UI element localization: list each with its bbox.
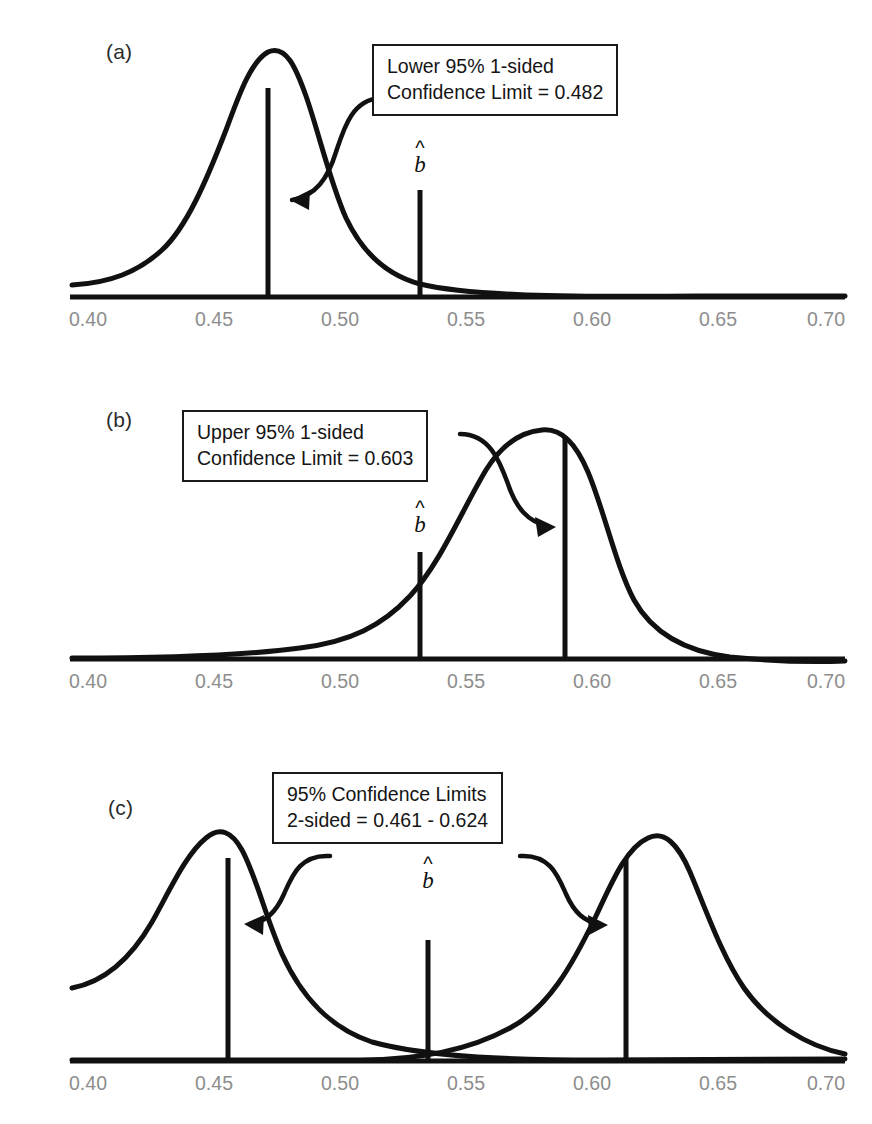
callout-box-a: Lower 95% 1-sided Confidence Limit = 0.4… <box>372 44 618 116</box>
arrowhead-c-left <box>244 915 264 935</box>
tick-label-b-6: 0.70 <box>807 670 845 693</box>
callout-a-line1: Lower 95% 1-sided <box>387 55 554 77</box>
estimate-symbol-b: ^ b <box>400 502 440 535</box>
tick-label-c-4: 0.60 <box>573 1072 611 1095</box>
tick-label-b-2: 0.50 <box>321 670 359 693</box>
tick-label-a-4: 0.60 <box>573 308 611 331</box>
panel-b: (b) Upper 95% 1-sided Confidence Limit =… <box>0 370 872 750</box>
arrow-path-c-right <box>520 856 600 924</box>
tick-label-a-5: 0.65 <box>699 308 737 331</box>
panel-label-a: (a) <box>106 40 132 64</box>
tick-label-c-3: 0.55 <box>447 1072 485 1095</box>
tick-label-b-0: 0.40 <box>69 670 107 693</box>
callout-c-line1: 95% Confidence Limits <box>287 783 486 805</box>
tick-label-b-5: 0.65 <box>699 670 737 693</box>
tick-label-a-0: 0.40 <box>69 308 107 331</box>
callout-b-line2: Confidence Limit = 0.603 <box>197 445 413 471</box>
panel-a: (a) Lower 95% 1-sided Confidence Limit =… <box>0 0 872 370</box>
tick-label-a-2: 0.50 <box>321 308 359 331</box>
callout-b-line1: Upper 95% 1-sided <box>197 421 364 443</box>
tick-label-c-5: 0.65 <box>699 1072 737 1095</box>
x-axis-tick-labels-c: 0.40 0.45 0.50 0.55 0.60 0.65 0.70 <box>0 1072 872 1100</box>
tick-label-a-1: 0.45 <box>195 308 233 331</box>
arrowhead-a <box>290 190 310 210</box>
tick-label-c-2: 0.50 <box>321 1072 359 1095</box>
confidence-limits-figure: (a) Lower 95% 1-sided Confidence Limit =… <box>0 0 872 1124</box>
estimate-symbol-a: ^ b <box>400 142 440 175</box>
lower-sampling-distribution-curve-c <box>72 832 845 1060</box>
panel-label-c: (c) <box>108 796 133 820</box>
panel-c-curves <box>72 832 845 1060</box>
callout-a-line2: Confidence Limit = 0.482 <box>387 79 603 105</box>
b-letter-c: b <box>408 871 448 891</box>
panel-label-b: (b) <box>106 408 132 432</box>
tick-label-b-4: 0.60 <box>573 670 611 693</box>
callout-box-b: Upper 95% 1-sided Confidence Limit = 0.6… <box>182 410 428 482</box>
arrow-path-c-left <box>250 856 330 924</box>
callout-box-c: 95% Confidence Limits 2-sided = 0.461 - … <box>272 772 503 844</box>
tick-label-c-6: 0.70 <box>807 1072 845 1095</box>
x-axis-tick-labels-b: 0.40 0.45 0.50 0.55 0.60 0.65 0.70 <box>0 670 872 698</box>
b-letter-a: b <box>400 155 440 175</box>
upper-sampling-distribution-curve-c <box>72 836 845 1060</box>
arrowhead-c-right <box>588 915 608 935</box>
panel-c: (c) 95% Confidence Limits 2-sided = 0.46… <box>0 750 872 1124</box>
arrowhead-b <box>535 517 556 537</box>
tick-label-c-1: 0.45 <box>195 1072 233 1095</box>
estimate-symbol-c: ^ b <box>408 858 448 891</box>
panel-a-marker-lines <box>268 88 420 296</box>
callout-c-line2: 2-sided = 0.461 - 0.624 <box>287 807 488 833</box>
tick-label-a-3: 0.55 <box>447 308 485 331</box>
tick-label-a-6: 0.70 <box>807 308 845 331</box>
tick-label-c-0: 0.40 <box>69 1072 107 1095</box>
b-letter-b: b <box>400 515 440 535</box>
x-axis-tick-labels-a: 0.40 0.45 0.50 0.55 0.60 0.65 0.70 <box>0 308 872 336</box>
tick-label-b-3: 0.55 <box>447 670 485 693</box>
tick-label-b-1: 0.45 <box>195 670 233 693</box>
